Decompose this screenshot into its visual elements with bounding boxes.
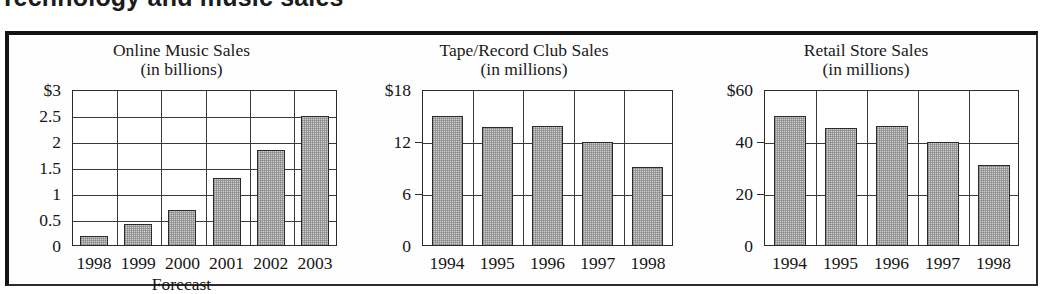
y-axis-tick-label: 2	[9, 132, 61, 153]
gridline	[73, 221, 336, 222]
x-axis-tick-label: 1998	[976, 253, 1011, 274]
x-axis-tick-label: 2002	[253, 253, 288, 274]
chart-title-subtitle: (in millions)	[354, 60, 694, 79]
category-separator	[473, 91, 474, 245]
chart-title-subtitle: (in billions)	[9, 60, 354, 79]
chart-panel-retail-store-sales: Retail Store Sales (in millions) 02040$6…	[694, 35, 1038, 284]
y-axis-tick-label: 0	[354, 236, 411, 257]
y-axis-tick-mark	[757, 142, 764, 143]
bar	[257, 150, 285, 246]
x-axis-tick-label: 1994	[772, 253, 807, 274]
bar	[482, 127, 513, 246]
chart-title: Retail Store Sales (in millions)	[694, 41, 1038, 79]
bar	[124, 224, 152, 246]
y-axis-tick-label: 0	[9, 236, 61, 257]
bar	[632, 167, 663, 246]
chart-title-line1: Tape/Record Club Sales	[354, 41, 694, 60]
category-separator	[624, 91, 625, 245]
category-separator	[867, 91, 868, 245]
gridline	[73, 169, 336, 170]
x-axis-tick-label: 2003	[297, 253, 332, 274]
category-separator	[574, 91, 575, 245]
bar	[582, 142, 613, 246]
y-axis-tick-label: 40	[694, 132, 753, 153]
category-separator	[206, 91, 207, 245]
x-axis-tick-label: 1999	[121, 253, 156, 274]
category-separator	[117, 91, 118, 245]
page-headline: Technology and music sales	[0, 0, 1044, 11]
y-axis-tick-label: 0.5	[9, 210, 61, 231]
category-separator	[918, 91, 919, 245]
chart-title-line1: Retail Store Sales	[694, 41, 1038, 60]
y-axis-tick-label: 20	[694, 184, 753, 205]
category-separator	[161, 91, 162, 245]
bar	[168, 210, 196, 246]
category-separator	[523, 91, 524, 245]
x-axis-tick-label: 1997	[925, 253, 960, 274]
chart-title-line1: Online Music Sales	[9, 41, 354, 60]
y-axis-tick-label: 12	[354, 132, 411, 153]
bar	[213, 178, 241, 246]
x-axis-tick-label: 1995	[480, 253, 515, 274]
x-axis-tick-label: 2001	[209, 253, 244, 274]
figure-frame: Online Music Sales (in billions) 00.511.…	[5, 31, 1038, 286]
x-axis-tick-label: 1996	[874, 253, 909, 274]
bar	[876, 126, 908, 246]
bar	[532, 126, 563, 246]
bar	[774, 116, 806, 246]
y-axis-tick-label: $3	[9, 80, 61, 101]
x-axis-tick-label: 1997	[580, 253, 615, 274]
gridline	[73, 117, 336, 118]
bar	[80, 236, 108, 246]
category-separator	[969, 91, 970, 245]
chart-title-subtitle: (in millions)	[694, 60, 1038, 79]
bar	[301, 116, 329, 246]
y-axis-tick-mark	[757, 194, 764, 195]
chart-panel-tape-record-club-sales: Tape/Record Club Sales (in millions) 061…	[354, 35, 694, 284]
x-axis-tick-label: 1995	[823, 253, 858, 274]
y-axis-tick-label: 0	[694, 236, 753, 257]
chart-title: Online Music Sales (in billions)	[9, 41, 354, 79]
bar	[432, 116, 463, 246]
category-separator	[816, 91, 817, 245]
x-axis-tick-label: 1996	[530, 253, 565, 274]
gridline	[73, 195, 336, 196]
bar	[927, 142, 959, 246]
y-axis-tick-label: 1.5	[9, 158, 61, 179]
y-axis-tick-label: 1	[9, 184, 61, 205]
y-axis-tick-mark	[415, 194, 422, 195]
x-axis-tick-label: 2000	[165, 253, 200, 274]
category-separator	[250, 91, 251, 245]
y-axis-tick-label: 2.5	[9, 106, 61, 127]
x-axis-tick-label: 1994	[430, 253, 465, 274]
x-axis-tick-label: 1998	[77, 253, 112, 274]
bar	[825, 128, 857, 246]
chart-xlabel: Forecast	[9, 274, 354, 294]
gridline	[73, 143, 336, 144]
y-axis-tick-mark	[415, 142, 422, 143]
chart-title: Tape/Record Club Sales (in millions)	[354, 41, 694, 79]
chart-panel-online-music-sales: Online Music Sales (in billions) 00.511.…	[9, 35, 354, 284]
bar	[978, 165, 1010, 246]
x-axis-tick-label: 1998	[630, 253, 665, 274]
y-axis-tick-label: 6	[354, 184, 411, 205]
chart-panels: Online Music Sales (in billions) 00.511.…	[9, 35, 1036, 284]
plot-area	[72, 90, 337, 246]
y-axis-tick-label: $60	[694, 80, 753, 101]
category-separator	[294, 91, 295, 245]
y-axis-tick-label: $18	[354, 80, 411, 101]
